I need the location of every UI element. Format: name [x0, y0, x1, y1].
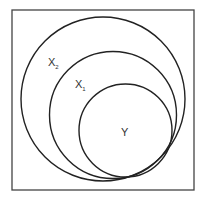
nested-sets-diagram: X2 X1 Y: [0, 0, 203, 200]
set-x1-label: X1: [75, 78, 86, 92]
set-x1-circle: [50, 52, 177, 179]
set-x2-label: X2: [48, 56, 59, 70]
frame: [12, 10, 194, 190]
set-y-label: Y: [121, 126, 129, 138]
